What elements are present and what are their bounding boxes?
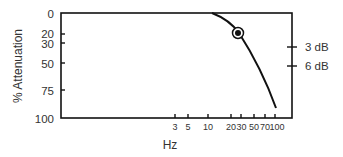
- x-tick-30: 30: [236, 122, 246, 132]
- right-tick-6db: 6 dB: [305, 60, 329, 72]
- y-tick-0: 0: [48, 8, 54, 20]
- x-axis-label: Hz: [163, 138, 178, 152]
- y-axis-label: % Attenuation: [11, 29, 25, 103]
- y-tick-30: 30: [41, 38, 54, 50]
- x-tick-5: 5: [185, 122, 190, 132]
- circled-point-marker: [233, 28, 244, 39]
- x-tick-20: 20: [226, 122, 236, 132]
- x-tick-100: 100: [269, 122, 284, 132]
- x-axis-tick-labels: 3 5 10 20 30 50 70 100: [172, 122, 284, 132]
- y-tick-50: 50: [41, 58, 54, 70]
- y-tick-75: 75: [41, 85, 54, 97]
- x-tick-50: 50: [249, 122, 259, 132]
- right-axis-tick-labels: 3 dB 6 dB: [305, 41, 329, 72]
- attenuation-curve: [212, 13, 276, 108]
- y-axis-tick-labels: 0 20 30 50 75 100: [35, 8, 54, 125]
- x-tick-3: 3: [172, 122, 177, 132]
- x-tick-10: 10: [203, 122, 213, 132]
- right-tick-3db: 3 dB: [305, 41, 329, 53]
- y-tick-100: 100: [35, 113, 54, 125]
- attenuation-chart: % Attenuation 0 20 30 50 75 100 3 5 10 2…: [0, 0, 343, 157]
